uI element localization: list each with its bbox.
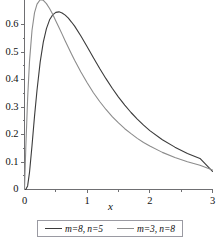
y-axis-tick-label: 0 xyxy=(13,184,18,195)
legend-item-label: m=3, n=8 xyxy=(137,224,175,234)
legend-line-swatch xyxy=(45,228,62,229)
plot-area: 00.10.20.30.40.50.6 0123 xyxy=(0,0,221,215)
axes-group xyxy=(21,0,213,193)
y-axis-tick-label: 0.2 xyxy=(5,129,18,140)
legend-item: m=8, n=5 xyxy=(45,224,103,234)
series-line-2 xyxy=(25,0,213,190)
y-axis-tick-label: 0.3 xyxy=(5,102,18,113)
y-axis-tick-label: 0.6 xyxy=(5,19,18,30)
curves-group xyxy=(25,0,213,190)
y-axis-tick-label: 0.1 xyxy=(5,157,18,168)
chart-legend: m=8, n=5 m=3, n=8 xyxy=(37,220,183,237)
y-axis-tick-label: 0.5 xyxy=(5,47,18,58)
legend-line-swatch xyxy=(117,228,134,229)
y-axis-tick-label: 0.4 xyxy=(5,74,18,85)
series-line-1 xyxy=(25,12,213,190)
legend-item-label: m=8, n=5 xyxy=(65,224,103,234)
legend-item: m=3, n=8 xyxy=(117,224,175,234)
plot-canvas xyxy=(0,0,221,215)
figure-root: 00.10.20.30.40.50.6 0123 x m=8, n=5 m=3,… xyxy=(0,0,221,244)
x-axis-title: x xyxy=(0,200,221,212)
